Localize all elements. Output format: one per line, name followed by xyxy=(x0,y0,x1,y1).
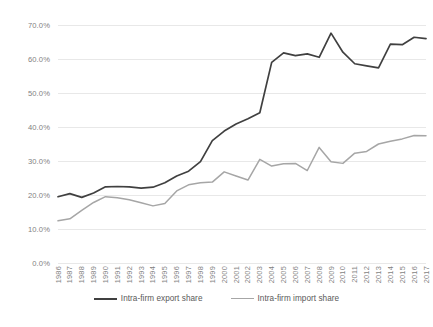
y-axis-tick-label: 10.0% xyxy=(0,225,50,234)
y-axis-tick-label: 60.0% xyxy=(0,55,50,64)
x-axis-tick-label: 2015 xyxy=(398,266,407,283)
x-axis-tick-label: 1999 xyxy=(208,266,217,283)
legend-swatch-line-icon xyxy=(94,298,117,300)
x-axis-tick-label: 1991 xyxy=(113,266,122,283)
x-axis-tick-label: 2016 xyxy=(410,266,419,283)
x-axis-tick-label: 2009 xyxy=(327,266,336,283)
x-axis-tick-label: 2007 xyxy=(303,266,312,283)
y-axis-tick-label: 0.0% xyxy=(0,259,50,268)
x-axis-tick-label: 2010 xyxy=(338,266,347,283)
y-axis: 0.0%10.0%20.0%30.0%40.0%50.0%60.0%70.0% xyxy=(0,0,54,327)
plot-area xyxy=(58,25,426,263)
x-axis-tick-label: 2014 xyxy=(386,266,395,283)
x-axis-tick-label: 2013 xyxy=(374,266,383,283)
x-axis-tick-label: 2012 xyxy=(362,266,371,283)
x-axis-tick-label: 1988 xyxy=(77,266,86,283)
x-axis-tick-label: 2000 xyxy=(220,266,229,283)
x-axis-tick-label: 1986 xyxy=(54,266,63,283)
x-axis-tick-label: 1989 xyxy=(89,266,98,283)
legend-label: Intra-firm export share xyxy=(121,294,203,303)
series-line-1 xyxy=(58,33,426,197)
x-axis-tick-label: 2006 xyxy=(291,266,300,283)
x-axis-tick-label: 1998 xyxy=(196,266,205,283)
legend-label: Intra-firm import share xyxy=(258,294,340,303)
legend-item-1[interactable]: Intra-firm export share xyxy=(94,294,203,303)
line-chart: 0.0%10.0%20.0%30.0%40.0%50.0%60.0%70.0% … xyxy=(0,0,433,327)
chart-legend: Intra-firm export shareIntra-firm import… xyxy=(0,294,433,303)
gridline xyxy=(58,263,426,264)
x-axis-tick-label: 1994 xyxy=(148,266,157,283)
legend-item-2[interactable]: Intra-firm import share xyxy=(231,294,340,303)
x-axis-tick-label: 1996 xyxy=(172,266,181,283)
x-axis-tick-label: 2001 xyxy=(232,266,241,283)
x-axis-tick-label: 2011 xyxy=(350,266,359,283)
series-line-2 xyxy=(58,136,426,221)
x-axis-tick-label: 1987 xyxy=(65,266,74,283)
y-axis-tick-label: 70.0% xyxy=(0,21,50,30)
x-axis-tick-label: 2005 xyxy=(279,266,288,283)
x-axis-tick-label: 1992 xyxy=(125,266,134,283)
x-axis-tick-label: 2004 xyxy=(267,266,276,283)
y-axis-tick-label: 40.0% xyxy=(0,123,50,132)
x-axis-tick-label: 1995 xyxy=(160,266,169,283)
legend-swatch-line-icon xyxy=(231,298,254,300)
x-axis-tick-label: 1990 xyxy=(101,266,110,283)
x-axis-tick-label: 2008 xyxy=(315,266,324,283)
x-axis-tick-label: 1997 xyxy=(184,266,193,283)
y-axis-tick-label: 50.0% xyxy=(0,89,50,98)
y-axis-tick-label: 30.0% xyxy=(0,157,50,166)
series-lines xyxy=(58,25,426,263)
x-axis-tick-label: 2003 xyxy=(255,266,264,283)
x-axis-tick-label: 1993 xyxy=(137,266,146,283)
x-axis-tick-label: 2002 xyxy=(243,266,252,283)
x-axis-tick-label: 2017 xyxy=(422,266,431,283)
y-axis-tick-label: 20.0% xyxy=(0,191,50,200)
